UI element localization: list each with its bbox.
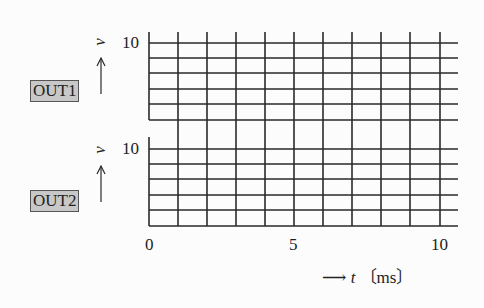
channel-label-out2: OUT2 [30, 190, 79, 212]
x-axis-label: ⟶ t 〔ms〕 [322, 263, 413, 288]
out2-y-axis-label: v [90, 146, 110, 154]
arrow-right-icon: ⟶ [322, 268, 346, 287]
x-axis-unit: 〔ms〕 [360, 268, 414, 287]
x-tick-0: 0 [145, 236, 154, 254]
x-tick-10: 10 [431, 236, 448, 254]
channel-label-out1: OUT1 [30, 80, 79, 102]
out1-y-tick-10: 10 [122, 34, 139, 52]
out2-y-tick-10: 10 [122, 140, 139, 158]
x-tick-5: 5 [289, 236, 298, 254]
x-axis-var: t [351, 268, 356, 287]
out1-y-axis-label: v [90, 38, 110, 46]
oscilloscope-grid [0, 0, 484, 308]
